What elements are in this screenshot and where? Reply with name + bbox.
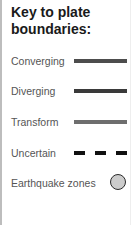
legend-title: Key to plate boundaries: xyxy=(11,4,131,38)
legend-label: Earthquake zones xyxy=(11,176,96,190)
transform-line-icon xyxy=(74,120,127,124)
legend-title-line2: boundaries: xyxy=(11,21,131,38)
diverging-line-icon xyxy=(74,89,127,93)
legend-label: Converging xyxy=(11,54,65,68)
legend-title-line1: Key to plate xyxy=(11,4,131,21)
earthquake-circle-icon xyxy=(110,174,126,190)
legend-label: Transform xyxy=(11,115,58,129)
legend-item-transform: Transform xyxy=(11,115,129,129)
dashed-line-icon xyxy=(74,151,127,155)
converging-line-icon xyxy=(74,59,127,63)
legend-item-uncertain: Uncertain xyxy=(11,146,129,160)
legend-panel: Key to plate boundaries: Converging Dive… xyxy=(0,0,131,225)
legend-label: Uncertain xyxy=(11,146,56,160)
legend-label: Diverging xyxy=(11,84,55,98)
legend-item-diverging: Diverging xyxy=(11,84,129,98)
legend-item-earthquake-zones: Earthquake zones xyxy=(11,176,129,190)
legend-item-converging: Converging xyxy=(11,54,129,68)
